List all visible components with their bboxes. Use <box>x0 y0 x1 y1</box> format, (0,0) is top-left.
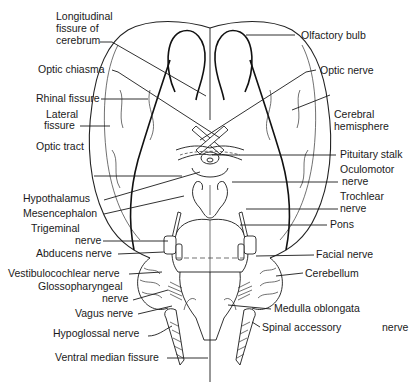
label-medulla-oblongata: Medulla oblongata <box>274 302 360 314</box>
optic-chiasma-shape <box>192 126 228 154</box>
olfactory-bulb-right <box>215 31 252 100</box>
left-hemisphere-outline <box>89 22 210 259</box>
label-hypothalamus: Hypothalamus <box>23 192 90 204</box>
label-optic-tract: Optic tract <box>36 140 84 152</box>
label-lateral-fissure: Lateral fissure <box>44 108 81 131</box>
label-facial-nerve: Facial nerve <box>316 248 373 260</box>
label-abducens-nerve: Abducens nerve <box>36 247 112 259</box>
label-trigeminal-nerve: Trigeminal nerve <box>31 222 101 246</box>
label-trochlear-nerve: Trochlear nerve <box>340 190 387 214</box>
label-optic-nerve: Optic nerve <box>320 64 374 76</box>
label-glossopharyngeal-nerve: Glossopharyngeal nerve <box>38 280 128 304</box>
label-olfactory-bulb: Olfactory bulb <box>301 29 366 41</box>
label-cerebellum: Cerebellum <box>305 267 359 279</box>
label-pituitary-stalk: Pituitary stalk <box>340 148 403 160</box>
label-vagus-nerve: Vagus nerve <box>75 307 133 319</box>
label-ventral-median-fissure: Ventral median fissure <box>55 351 159 363</box>
olfactory-bulb-left <box>168 31 205 100</box>
label-optic-chiasma: Optic chiasma <box>38 63 105 75</box>
label-pons: Pons <box>330 218 354 230</box>
brain-ventral-diagram: Longitudinal fissure of cerebrum Optic c… <box>0 0 419 382</box>
label-vestibulocochlear-nerve: Vestibulocochlear nerve <box>8 267 120 279</box>
label-spinal-accessory-nerve: Spinal accessory nerve <box>262 321 408 333</box>
label-longitudinal-fissure: Longitudinal fissure of cerebrum <box>56 10 116 46</box>
label-oculomotor-nerve: Oculomotor nerve <box>340 163 397 187</box>
label-cerebral-hemisphere: Cerebral hemisphere <box>334 108 389 132</box>
labels-right: Olfactory bulb Optic nerve Cerebral hemi… <box>262 29 408 333</box>
rhinal-fissure-line-left <box>131 60 170 250</box>
labels-left: Longitudinal fissure of cerebrum Optic c… <box>8 10 159 363</box>
label-rhinal-fissure: Rhinal fissure <box>36 92 100 104</box>
label-hypoglossal-nerve: Hypoglossal nerve <box>53 327 140 339</box>
label-mesencephalon: Mesencephalon <box>23 207 97 219</box>
right-hemisphere-outline <box>210 22 331 259</box>
